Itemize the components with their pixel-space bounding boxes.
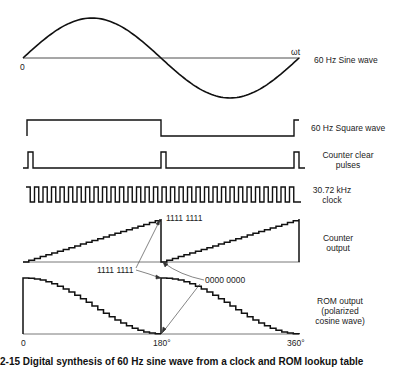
sine-wave bbox=[23, 18, 300, 98]
label-sine-wave: 60 Hz Sine wave bbox=[314, 55, 378, 65]
label-rom-output: ROM output (polarized cosine wave) bbox=[305, 296, 375, 326]
figure-caption: 2-15 Digital synthesis of 60 Hz sine wav… bbox=[0, 356, 363, 367]
annotation-counter-max-mid: 1111 1111 bbox=[97, 265, 133, 275]
annotation-arrows bbox=[136, 219, 204, 333]
label-square-wave: 60 Hz Square wave bbox=[311, 123, 385, 133]
sine-origin-label: 0 bbox=[20, 62, 25, 72]
omega-t-label: ωt bbox=[291, 47, 300, 57]
square-wave bbox=[27, 120, 299, 136]
x-tick-360: 360° bbox=[287, 338, 305, 348]
rom-output bbox=[23, 278, 300, 334]
counter-clear-pulses bbox=[23, 152, 305, 168]
label-clock: 30.72 kHz clock bbox=[304, 185, 360, 205]
x-tick-0: 0 bbox=[21, 338, 26, 348]
clock-signal bbox=[26, 187, 301, 202]
x-tick-180: 180° bbox=[153, 338, 171, 348]
counter-output bbox=[23, 219, 300, 262]
label-counter-output: Counter output bbox=[303, 233, 373, 253]
annotation-counter-zero: 0000 0000 bbox=[205, 275, 245, 285]
annotation-counter-max-top: 1111 1111 bbox=[166, 213, 202, 223]
label-counter-clear: Counter clear pulses bbox=[308, 150, 388, 170]
